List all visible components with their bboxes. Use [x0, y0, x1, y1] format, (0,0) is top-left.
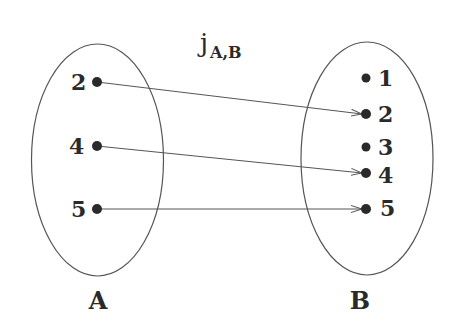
diagram-title: jA,B: [197, 28, 242, 62]
set-b-element: 4: [361, 162, 393, 188]
title-main: j: [197, 28, 208, 58]
set-b-element: 5: [361, 195, 395, 221]
set-b-label-4: 4: [378, 162, 393, 188]
function-mapping-diagram: jA,B 2 4 5 1 2 3 4 5 A B: [0, 0, 459, 331]
set-a-dot-4: [92, 141, 102, 151]
set-b-dot-1: [362, 74, 371, 83]
set-b-dot-4: [361, 168, 371, 178]
set-b-label-1: 1: [378, 65, 393, 91]
title-subscript: A,B: [209, 43, 242, 62]
set-a-name: A: [88, 286, 108, 315]
set-b-label-5: 5: [380, 195, 395, 221]
set-b-element: 3: [362, 134, 394, 160]
mapping-arrow-2-to-2: [97, 82, 362, 114]
set-b-dot-5: [361, 204, 371, 214]
set-a-label-4: 4: [69, 133, 84, 159]
set-b-dot-3: [362, 143, 371, 152]
set-a-label-2: 2: [71, 69, 86, 95]
set-a-dot-5: [92, 204, 102, 214]
set-a-element: 2: [71, 69, 102, 95]
set-b-element: 2: [361, 101, 393, 127]
set-b-dot-2: [361, 109, 371, 119]
set-b-label-3: 3: [378, 134, 393, 160]
set-b-name: B: [350, 286, 370, 315]
set-b-element: 1: [362, 65, 394, 91]
set-a-label-5: 5: [71, 196, 86, 222]
set-a-dot-2: [92, 77, 102, 87]
set-a-element: 5: [71, 196, 102, 222]
set-b-label-2: 2: [378, 101, 393, 127]
mapping-arrow-4-to-4: [97, 146, 362, 173]
set-a-element: 4: [69, 133, 102, 159]
